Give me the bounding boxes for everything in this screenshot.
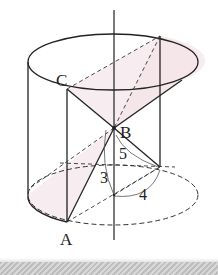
dash-center-radius <box>114 167 160 195</box>
label-radius-4: 4 <box>139 186 147 203</box>
bottom-hatched-bar <box>0 262 218 275</box>
cylinder-cone-diagram: C B A 5 3 4 <box>0 0 218 262</box>
label-height-3: 3 <box>100 169 108 186</box>
point-B <box>112 126 116 130</box>
arc-radius-4 <box>114 170 160 196</box>
point-center <box>113 194 115 196</box>
label-C: C <box>56 71 67 90</box>
diagram-svg: C B A 5 3 4 <box>0 0 218 262</box>
label-B: B <box>120 123 131 142</box>
label-A: A <box>60 230 73 249</box>
label-slant-5: 5 <box>119 145 127 162</box>
